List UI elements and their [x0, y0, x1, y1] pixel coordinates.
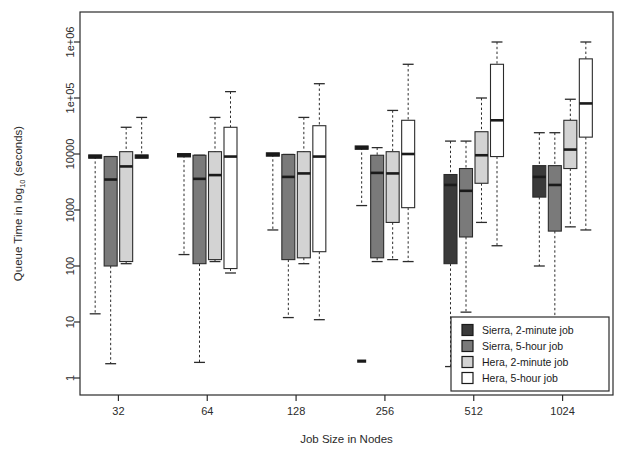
x-axis-tick-label: 128	[287, 405, 305, 417]
box-group	[135, 117, 148, 158]
box-rect	[533, 166, 546, 197]
legend-swatch	[462, 373, 473, 384]
box-rect	[120, 152, 133, 262]
box-rect	[564, 120, 577, 168]
box-rect	[209, 152, 222, 260]
box-rect	[224, 127, 237, 268]
legend-label: Sierra, 2-minute job	[482, 324, 574, 336]
legend-swatch-inner	[464, 327, 471, 334]
box-group	[491, 42, 504, 246]
y-axis-tick-label: 1000	[64, 198, 76, 222]
box-rect	[371, 155, 384, 258]
x-axis-tick-label: 512	[465, 405, 483, 417]
box-group	[355, 146, 368, 363]
legend-label: Hera, 5-hour job	[482, 372, 558, 384]
outlier-marker	[357, 360, 366, 363]
box-group	[371, 148, 384, 262]
box-rect	[460, 169, 473, 237]
box-rect	[548, 166, 561, 231]
legend-label: Hera, 2-minute job	[482, 356, 569, 368]
legend-swatch-inner	[464, 359, 471, 366]
box-group	[120, 127, 133, 263]
y-axis-tick-label: 1e+05	[64, 83, 76, 114]
x-axis-tick-label: 32	[112, 405, 124, 417]
box-degenerate	[266, 153, 279, 156]
box-group	[89, 155, 102, 314]
box-rect	[297, 152, 310, 258]
y-axis-tick-label: 1	[64, 375, 76, 381]
box-rect	[313, 126, 326, 252]
boxplot-figure: 1101001000100001e+051e+06326412825651210…	[0, 0, 626, 456]
box-group	[209, 117, 222, 261]
x-axis-tick-label: 1024	[550, 405, 574, 417]
box-rect	[193, 155, 206, 263]
x-axis-tick-label: 256	[376, 405, 394, 417]
box-group	[475, 98, 488, 222]
y-axis-tick-label: 1e+06	[64, 27, 76, 58]
box-rect	[402, 120, 415, 207]
box-degenerate	[135, 155, 148, 158]
box-group	[564, 99, 577, 227]
box-group	[282, 154, 295, 317]
box-degenerate	[89, 155, 102, 158]
box-group	[402, 64, 415, 261]
x-axis-tick-label: 64	[201, 405, 213, 417]
box-group	[224, 92, 237, 273]
box-group	[460, 141, 473, 312]
box-group	[579, 42, 592, 230]
box-group	[548, 133, 561, 339]
box-group	[193, 155, 206, 362]
box-group	[313, 84, 326, 320]
box-rect	[386, 152, 399, 223]
box-group	[104, 157, 117, 364]
legend-label: Sierra, 5-hour job	[482, 340, 563, 352]
box-group	[533, 133, 546, 266]
box-degenerate	[178, 154, 191, 157]
box-rect	[282, 154, 295, 259]
x-axis-title: Job Size in Nodes	[300, 433, 393, 445]
y-axis-title: Queue Time in log10 (seconds)	[12, 126, 27, 282]
boxplot-svg: 1101001000100001e+051e+06326412825651210…	[0, 0, 626, 456]
box-group	[266, 153, 279, 230]
y-axis-tick-label: 10000	[64, 139, 76, 170]
box-rect	[475, 132, 488, 184]
box-group	[297, 117, 310, 263]
box-rect	[491, 64, 504, 156]
box-group	[178, 154, 191, 255]
y-axis-tick-label: 100	[64, 257, 76, 275]
box-degenerate	[355, 146, 368, 149]
box-rect	[444, 175, 457, 264]
box-rect	[579, 59, 592, 137]
box-group	[386, 110, 399, 259]
box-rect	[104, 157, 117, 266]
y-axis-tick-label: 10	[64, 316, 76, 328]
legend-swatch-inner	[464, 343, 471, 350]
